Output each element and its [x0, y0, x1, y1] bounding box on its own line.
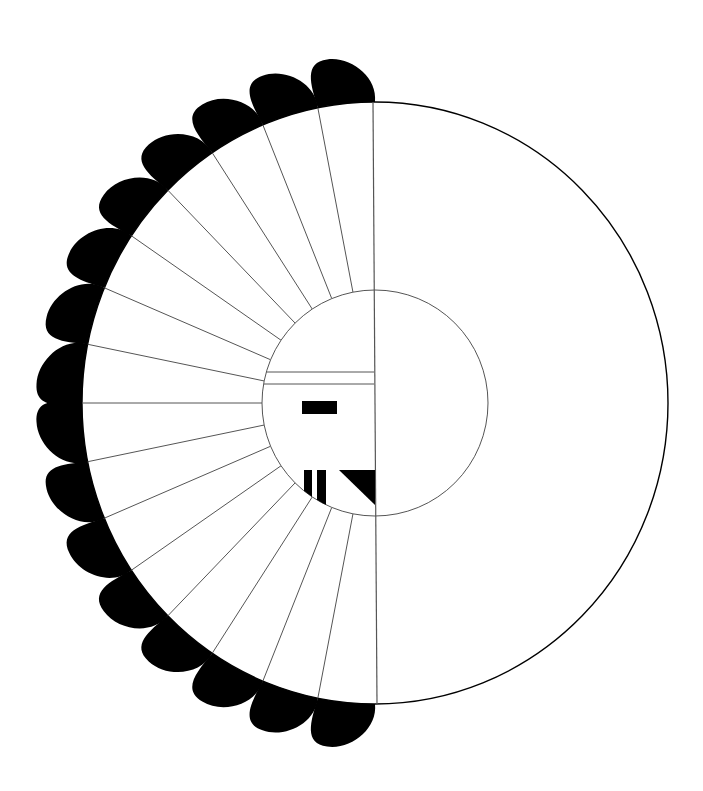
feather-shape	[311, 698, 375, 747]
sun-emblem-canvas	[0, 0, 703, 791]
sun-emblem-graphic	[0, 0, 703, 791]
feather-shape	[311, 59, 375, 108]
feather-shape	[36, 343, 87, 405]
feather-shape	[36, 401, 87, 463]
eye-rectangle	[302, 401, 337, 414]
